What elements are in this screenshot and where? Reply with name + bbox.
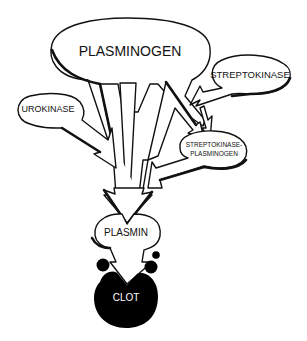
sk-plasminogen-label-line1: STREPTOKINASE- xyxy=(186,141,243,148)
plasmin-label: PLASMIN xyxy=(104,227,148,238)
fibrinolysis-diagram: PLASMINOGEN STREPTOKINASE UROKINASE STRE… xyxy=(0,0,307,341)
clot-fragment-dot xyxy=(152,251,160,259)
clot-label: CLOT xyxy=(113,292,140,303)
plasmin-node: PLASMIN xyxy=(92,214,160,284)
sk-plasminogen-label-line2: PLASMINOGEN xyxy=(190,150,238,157)
urokinase-label: UROKINASE xyxy=(21,104,74,114)
clot-fragment-dot xyxy=(145,261,158,274)
streptokinase-label: STREPTOKINASE xyxy=(210,69,290,80)
plasminogen-label: PLASMINOGEN xyxy=(79,43,182,59)
clot-fragment-dot xyxy=(97,259,110,272)
